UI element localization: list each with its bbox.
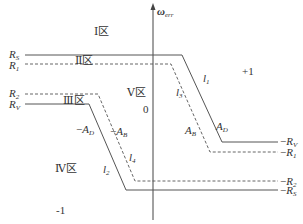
label-main: A <box>216 120 223 132</box>
label-sub: 2 <box>106 169 110 177</box>
label-rv-left: RV <box>9 99 20 114</box>
label-neg-ad: −AD <box>76 124 94 139</box>
label-l2: l2 <box>103 164 110 179</box>
label-main: A <box>82 123 89 135</box>
axis-label-main: ω <box>157 5 165 17</box>
axis-arrow-icon <box>151 3 156 10</box>
origin-label: 0 <box>143 104 149 115</box>
label-main: A <box>116 125 123 137</box>
label-l3: l3 <box>176 87 183 102</box>
zone-1-label: Ⅰ区 <box>94 26 109 37</box>
label-sub: D <box>89 129 94 137</box>
label-sub: B <box>192 130 196 138</box>
label-ab: AB <box>185 125 196 140</box>
label-main: R <box>9 98 16 110</box>
label-ad: AD <box>216 121 228 136</box>
label-neg-ab: −AB <box>110 126 127 141</box>
curve-l3-dashed <box>25 64 278 152</box>
label-sub: V <box>16 104 20 112</box>
zone-2-label: Ⅱ区 <box>75 55 93 66</box>
curve-l2-solid <box>25 104 278 190</box>
label-neg-r1-right: −R1 <box>280 147 296 162</box>
label-main: R <box>286 184 293 196</box>
zone-4-label: Ⅳ区 <box>55 163 77 174</box>
label-sub: 4 <box>132 157 136 165</box>
zone-5-label: Ⅴ区 <box>127 87 146 98</box>
axis-label-sub: err <box>165 11 174 19</box>
label-main: R <box>286 146 293 158</box>
label-sub: 1 <box>293 152 297 160</box>
label-sub: S <box>293 190 297 198</box>
plus-one-label: +1 <box>242 66 254 77</box>
label-neg-rs-right: −RS <box>280 185 296 200</box>
label-sub: D <box>223 126 228 134</box>
label-r1-left: R1 <box>9 60 19 75</box>
zone-3-label: Ⅲ区 <box>63 95 85 106</box>
switching-curves-diagram <box>0 0 303 224</box>
axis-label-omega-err: ωerr <box>157 6 174 21</box>
minus-one-label: -1 <box>56 205 65 216</box>
label-sub: B <box>123 131 127 139</box>
label-l4: l4 <box>129 152 136 167</box>
label-main: R <box>9 59 16 71</box>
label-sub: 1 <box>206 78 210 86</box>
label-sub: 1 <box>16 65 20 73</box>
label-main: A <box>185 124 192 136</box>
label-l1: l1 <box>203 73 210 88</box>
label-sub: 3 <box>179 92 183 100</box>
